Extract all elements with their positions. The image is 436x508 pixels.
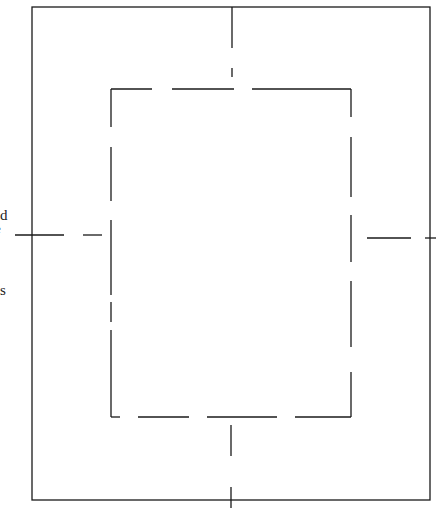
text-fragment-e: e — [0, 222, 1, 235]
diagram-canvas: d e s — [0, 0, 436, 508]
text-fragment-s: s — [0, 283, 6, 298]
text-fragment-d: d — [0, 208, 8, 223]
diagram-svg — [0, 0, 436, 508]
